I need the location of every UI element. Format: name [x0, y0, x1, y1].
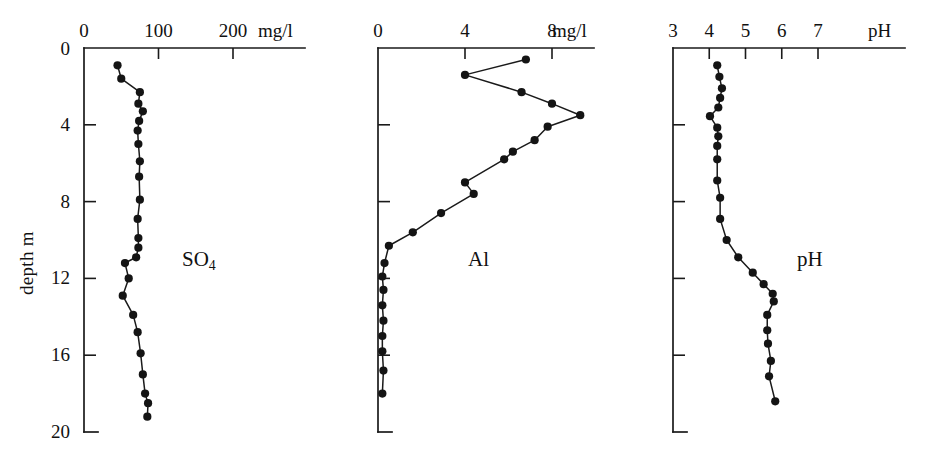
so4-data-point	[134, 100, 142, 108]
al-data-point	[380, 259, 388, 267]
al-data-point	[461, 178, 469, 186]
ph-data-point	[771, 397, 779, 405]
al-data-point	[378, 347, 386, 355]
ph-data-point	[716, 94, 724, 102]
al-data-point	[378, 301, 386, 309]
ph-data-point	[760, 280, 768, 288]
al-data-point	[437, 209, 445, 217]
al-data-point	[576, 111, 584, 119]
al-data-point	[378, 332, 386, 340]
ph-data-point	[713, 124, 721, 132]
so4-data-point	[125, 274, 133, 282]
al-data-point	[544, 123, 552, 131]
al-data-point	[385, 242, 393, 250]
so4-data-point	[136, 88, 144, 96]
so4-data-point	[119, 292, 127, 300]
ph-data-point	[767, 357, 775, 365]
ph-data-point	[734, 253, 742, 261]
al-data-point	[378, 390, 386, 398]
ph-data-point	[718, 84, 726, 92]
so4-data-point	[121, 259, 129, 267]
so4-data-point	[113, 61, 121, 69]
so4-data-line	[118, 65, 149, 416]
so4-data-point	[136, 196, 144, 204]
al-data-point	[409, 228, 417, 236]
ph-data-point	[764, 340, 772, 348]
al-data-point	[522, 55, 530, 63]
so4-data-point	[139, 107, 147, 115]
so4-data-point	[139, 370, 147, 378]
so4-data-point	[134, 215, 142, 223]
ph-data-point	[749, 269, 757, 277]
al-data-point	[470, 190, 478, 198]
al-data-point	[509, 148, 517, 156]
so4-data-point	[117, 75, 125, 83]
so4-data-point	[134, 126, 142, 134]
ph-data-point	[714, 132, 722, 140]
ph-data-point	[716, 215, 724, 223]
ph-data-point	[763, 311, 771, 319]
so4-data-point	[135, 173, 143, 181]
ph-data-point	[714, 103, 722, 111]
ph-data-line	[710, 65, 775, 401]
ph-data-point	[763, 326, 771, 334]
al-data-point	[548, 100, 556, 108]
depth-profile-figure: depth m 048121620 0100200mg/lSO4048mg/lA…	[0, 0, 929, 458]
so4-data-point	[136, 157, 144, 165]
so4-data-point	[135, 117, 143, 125]
ph-data-point	[716, 194, 724, 202]
al-data-point	[379, 286, 387, 294]
ph-data-point	[715, 73, 723, 81]
al-data-point	[379, 317, 387, 325]
al-data-point	[461, 71, 469, 79]
so4-data-point	[129, 311, 137, 319]
so4-data-point	[144, 399, 152, 407]
ph-data-point	[713, 176, 721, 184]
plot-canvas	[0, 0, 929, 458]
ph-data-point	[713, 61, 721, 69]
ph-data-point	[765, 372, 773, 380]
so4-data-point	[134, 234, 142, 242]
so4-data-point	[134, 328, 142, 336]
so4-data-point	[143, 413, 151, 421]
al-data-point	[531, 136, 539, 144]
ph-data-point	[713, 155, 721, 163]
so4-data-point	[137, 349, 145, 357]
al-data-line	[382, 60, 580, 394]
al-data-point	[378, 272, 386, 280]
ph-data-point	[713, 142, 721, 150]
ph-data-point	[706, 112, 714, 120]
ph-data-point	[770, 297, 778, 305]
so4-data-point	[134, 244, 142, 252]
al-data-point	[517, 88, 525, 96]
so4-data-point	[132, 253, 140, 261]
al-data-point	[500, 155, 508, 163]
so4-data-point	[134, 140, 142, 148]
so4-data-point	[141, 390, 149, 398]
ph-data-point	[723, 236, 731, 244]
ph-data-point	[769, 290, 777, 298]
al-data-point	[379, 366, 387, 374]
